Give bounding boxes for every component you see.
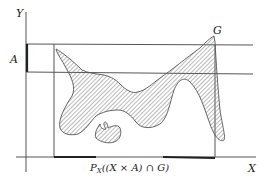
y-axis-label: Y — [16, 8, 23, 19]
projection-segment-right — [163, 157, 215, 158]
graph-label: G — [213, 25, 222, 36]
projection-body: ((X × A) ∩ — [102, 162, 158, 173]
projection-label: PX((X × A) ∩ G) — [90, 163, 169, 175]
set-a-label: A — [10, 54, 18, 65]
graph-region-island — [95, 122, 120, 143]
x-axis-label: X — [248, 163, 256, 174]
strip-bottom-line — [26, 72, 253, 74]
projection-diagram: Y A G X PX((X × A) ∩ G) — [0, 0, 268, 190]
strip-top-line — [26, 44, 253, 45]
graph-region-main — [56, 36, 225, 141]
projection-prefix: P — [90, 162, 97, 173]
projection-suffix: ) — [165, 162, 169, 173]
